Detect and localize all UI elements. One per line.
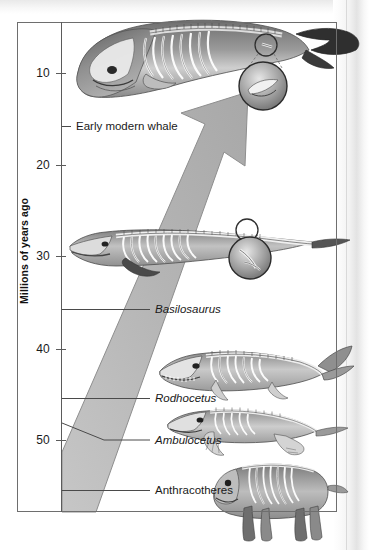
leader-line-basilosaurus (62, 309, 150, 310)
leader-line-anthracotheres (62, 490, 150, 491)
y-axis-tick-20 (56, 165, 66, 166)
y-axis-tick-10 (56, 73, 66, 74)
leader-line-rodhocetus (62, 398, 150, 399)
page-edge-line (346, 0, 347, 550)
y-axis-tick-50 (56, 440, 66, 441)
taxon-label-basilosaurus: Basilosaurus (155, 303, 221, 315)
y-axis-tick-label-10: 10 (22, 66, 50, 80)
y-axis-tick-label-30: 30 (22, 249, 50, 263)
y-axis-tick-label-20: 20 (22, 158, 50, 172)
taxon-label-rodhocetus: Rodhocetus (155, 392, 216, 404)
leader-line-early-modern-whale (62, 126, 71, 127)
taxon-label-anthracotheres: Anthracotheres (155, 484, 233, 496)
taxon-label-ambulocetus: Ambulocetus (155, 434, 221, 446)
page-top-shading (0, 0, 369, 14)
y-axis-tick-label-40: 40 (22, 342, 50, 356)
y-axis-line (61, 22, 62, 512)
page-edge-shading (333, 0, 369, 550)
y-axis-tick-label-50: 50 (22, 433, 50, 447)
y-axis-tick-30 (56, 256, 66, 257)
y-axis-tick-40 (56, 349, 66, 350)
taxon-label-early-modern-whale: Early modern whale (76, 120, 178, 132)
